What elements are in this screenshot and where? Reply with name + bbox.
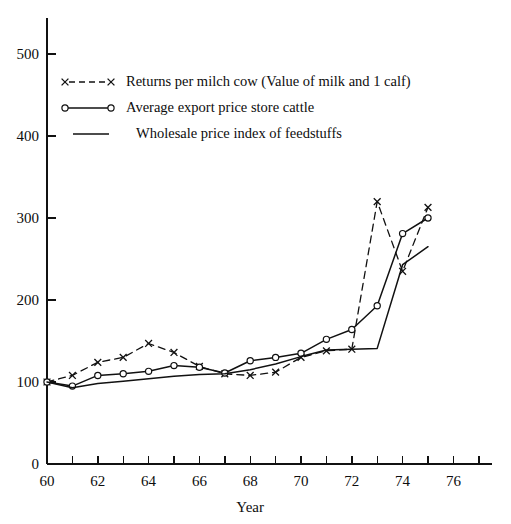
chart-series (44, 198, 432, 385)
data-point-marker-o (349, 326, 355, 332)
legend-label: Wholesale price index of feedstuffs (136, 125, 342, 141)
chart-figure: 0100200300400500 606264666870727476 Retu… (0, 0, 511, 524)
data-point-marker-o (171, 363, 177, 369)
data-point-marker-o (425, 215, 431, 221)
y-tick-label: 500 (17, 46, 40, 62)
legend-label: Average export price store cattle (126, 99, 314, 115)
legend-entry: Average export price store cattle (62, 99, 314, 115)
legend-label: Returns per milch cow (Value of milk and… (126, 73, 411, 90)
data-point-marker-o (400, 230, 406, 236)
legend-marker-o (108, 105, 114, 111)
chart-canvas: 0100200300400500 606264666870727476 Retu… (0, 0, 511, 524)
y-tick-label: 300 (17, 210, 40, 226)
data-point-marker-o (196, 364, 202, 370)
y-tick-label: 100 (17, 374, 40, 390)
data-point-marker-o (247, 358, 253, 364)
x-tick-label: 66 (192, 473, 208, 489)
data-point-marker-o (323, 336, 329, 342)
data-point-marker-o (273, 354, 279, 360)
data-point-marker-o (146, 368, 152, 374)
data-point-marker-o (95, 372, 101, 378)
y-axis-ticks: 0100200300400500 (17, 46, 57, 472)
data-point-marker-o (120, 371, 126, 377)
x-tick-label: 62 (90, 473, 105, 489)
x-axis-ticks: 606264666870727476 (40, 456, 479, 489)
data-point-marker-o (374, 303, 380, 309)
y-tick-label: 200 (17, 292, 40, 308)
x-tick-label: 60 (40, 473, 55, 489)
legend-marker-o (62, 105, 68, 111)
series-path (47, 202, 428, 382)
y-tick-label: 0 (32, 456, 40, 472)
x-axis-title: Year (236, 499, 264, 515)
chart-series (44, 215, 431, 389)
x-tick-label: 74 (395, 473, 411, 489)
x-tick-label: 70 (294, 473, 309, 489)
y-tick-label: 400 (17, 128, 40, 144)
legend-entry: Returns per milch cow (Value of milk and… (62, 73, 411, 90)
chart-legend: Returns per milch cow (Value of milk and… (62, 73, 411, 141)
x-tick-label: 68 (243, 473, 258, 489)
legend-entry: Wholesale price index of feedstuffs (73, 125, 342, 141)
x-tick-label: 72 (344, 473, 359, 489)
x-tick-label: 76 (446, 473, 462, 489)
series-layer (44, 198, 432, 389)
x-tick-label: 64 (141, 473, 157, 489)
